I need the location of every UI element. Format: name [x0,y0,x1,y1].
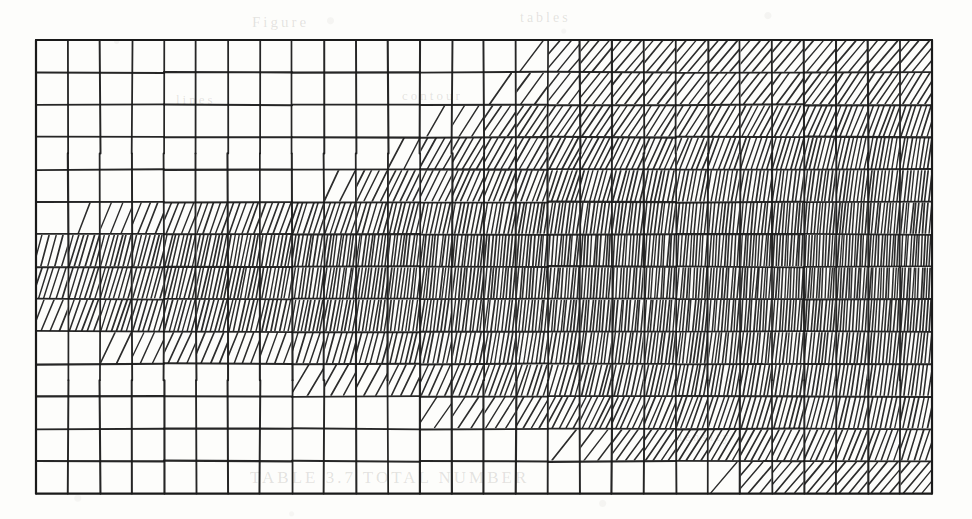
hatch-cell [352,365,392,396]
hatch-cell [900,332,932,363]
hatch-cell [580,300,611,332]
hatch-cell [323,235,357,267]
hatch-cell [291,235,326,266]
hatch-cell [868,365,900,396]
hatch-cell [674,170,709,202]
hatch-cell [709,300,740,331]
hatch-cell [129,235,168,266]
hatch-cell [65,235,104,267]
hatch-cell [612,300,644,331]
hatch-cell [451,332,486,363]
hatch-cell [160,235,200,266]
hatch-cell [548,235,580,267]
hatch-cell [192,333,231,364]
hatch-cell [128,267,168,298]
hatch-cell [225,300,264,331]
hatch-cell [258,332,295,363]
hatch-cell [741,300,772,331]
hatch-cell [731,429,782,461]
hatch-cell [741,235,771,266]
hatch-cell [900,202,931,234]
hatch-cell [417,397,456,428]
hatch-cell [767,138,808,169]
hatch-cell [159,332,200,363]
hatch-cell [835,365,869,396]
hatch-cell [537,138,589,169]
hatch-cell [515,202,549,233]
hatch-cell [352,203,392,234]
hatch-cell [642,364,679,395]
hatch-cell [869,235,898,266]
hatch-cell [801,397,839,428]
hatch-cell [387,235,421,267]
hatch-cell [388,267,421,299]
hatch-cell [319,365,360,396]
hatch-cell [676,203,707,234]
hatch-cell [450,202,486,234]
hatch-cell [676,267,707,299]
hatch-cell [570,430,620,461]
hatch-cell [709,267,740,299]
hatch-cell [34,235,71,266]
hatch-cell [575,170,615,202]
hatch-cell [901,300,931,331]
hatch-cell [194,267,230,299]
hatch-cell [322,300,359,332]
hatch-cell [804,170,836,202]
hatch-cell [548,202,582,234]
hatch-cell [741,202,772,234]
hatch-cell [837,235,867,266]
hatch-cell [452,267,485,299]
hatch-cell [95,300,135,331]
hatch-cell [193,235,230,266]
hatch-cell [515,300,547,331]
figure-root: FiguretableslinescontourTABLE 3.7 TOTAL … [0,0,972,519]
hatch-cell [287,202,328,234]
hatch-cell [516,267,547,298]
hatch-cell [552,430,576,460]
hatch-cell [644,332,675,363]
hatch-cell [579,202,613,234]
hatch-cell [579,332,613,363]
hatch-cell [543,170,586,201]
hatch-cell [899,397,934,429]
hatch-cell [888,73,944,105]
hatch-cell [772,170,804,202]
hatch-cell [804,202,835,233]
hatch-cell [609,170,648,201]
hatch-cell [129,202,168,233]
hatch-cell [900,364,933,396]
hatch-cell [736,397,777,428]
hatch-cell [520,40,543,71]
hatch-cell [129,332,167,363]
hatch-cell [570,397,621,429]
hatch-cell [900,170,932,201]
hatch-cell [32,300,71,331]
hatch-cell [896,429,936,460]
hatch-cell [160,300,200,332]
hatch-cell [834,397,870,428]
hatch-cell [869,203,900,234]
hatch-cell [388,138,420,169]
hatch-cell [128,300,169,331]
hatch-cell [290,267,324,299]
hatch-cell [642,170,678,201]
hatch-cell [544,365,584,396]
hatch-cell [490,73,511,104]
hatch-cell [225,332,262,363]
hatch-cell [385,203,424,234]
hatch-cell [418,202,454,233]
hatch-cell [703,397,745,428]
hatch-cell [768,397,807,429]
hatch-cell [258,235,293,266]
hatch-cell [515,332,548,364]
hatch-cell [804,332,836,363]
hatch-cell [535,73,592,105]
hatch-cell [385,332,422,363]
hatch-cell [869,300,899,331]
hatch-cell [697,429,750,460]
hatch-cell [160,267,200,298]
hatch-cell [735,138,776,170]
hatch-cell [324,170,355,201]
hatch-cell [452,300,484,331]
